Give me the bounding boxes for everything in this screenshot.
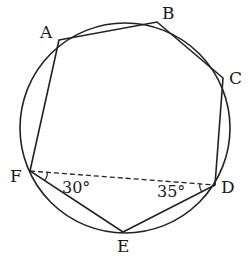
- vertex-label-e: E: [117, 236, 129, 256]
- angle-label-dfe: 30°: [62, 178, 90, 197]
- angle-arc-f: [45, 172, 47, 180]
- vertex-label-f: F: [10, 166, 22, 186]
- angle-arc-d: [200, 184, 202, 192]
- angle-label-fde: 35°: [157, 182, 185, 201]
- circumcircle: [20, 23, 230, 233]
- vertex-label-c: C: [229, 68, 242, 88]
- vertex-label-b: B: [162, 3, 175, 23]
- hexagon-abcdef: [30, 22, 223, 232]
- vertex-label-d: D: [221, 177, 235, 197]
- geometry-diagram: A B C D E F 30° 35°: [0, 0, 251, 256]
- vertex-label-a: A: [39, 22, 53, 42]
- chord-fd-dashed: [30, 171, 215, 185]
